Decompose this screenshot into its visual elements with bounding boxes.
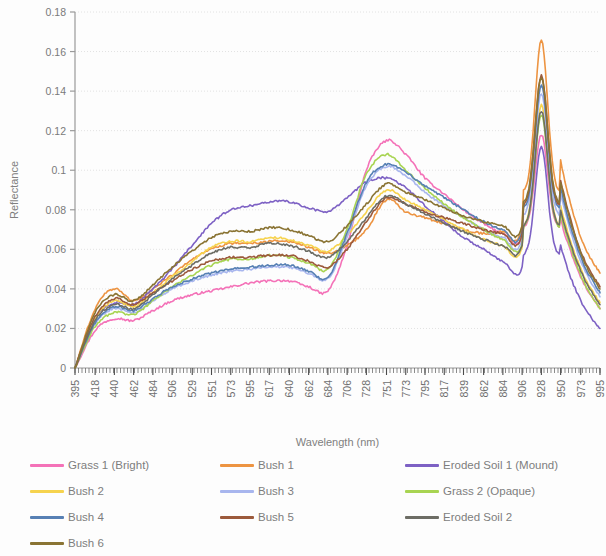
chart-legend: Grass 1 (Bright)Bush 1Eroded Soil 1 (Mou… — [30, 452, 596, 552]
legend-color-swatch — [405, 490, 439, 493]
x-axis-tick-label: 995 — [594, 380, 606, 398]
x-axis-tick-label: 950 — [555, 380, 567, 398]
y-axis-tick-label: 0.06 — [46, 243, 67, 255]
legend-item[interactable]: Grass 1 (Bright) — [30, 452, 220, 478]
x-axis-tick-label: 839 — [458, 380, 470, 398]
x-axis-tick-label: 928 — [535, 380, 547, 398]
legend-color-swatch — [30, 516, 64, 519]
x-axis-tick-label: 484 — [147, 380, 159, 398]
legend-item[interactable]: Bush 1 — [220, 452, 405, 478]
x-axis-tick-label: 817 — [438, 380, 450, 398]
y-axis-tick-label: 0.18 — [46, 6, 67, 18]
legend-color-swatch — [405, 516, 439, 519]
legend-color-swatch — [220, 464, 254, 467]
legend-row: Bush 6 — [30, 530, 596, 556]
legend-item[interactable]: Eroded Soil 2 — [405, 504, 596, 530]
y-axis-tick-label: 0.14 — [46, 85, 67, 97]
y-axis-title: Reflectance — [8, 161, 20, 219]
legend-label: Eroded Soil 1 (Mound) — [443, 459, 558, 471]
data-series-line — [75, 40, 600, 368]
x-axis-tick-label: 884 — [497, 380, 509, 398]
legend-label: Grass 2 (Opaque) — [443, 485, 535, 497]
x-axis-tick-label: 440 — [108, 380, 120, 398]
legend-color-swatch — [405, 464, 439, 467]
legend-item[interactable]: Bush 4 — [30, 504, 220, 530]
legend-label: Grass 1 (Bright) — [68, 459, 149, 471]
legend-row: Bush 4Bush 5Eroded Soil 2 — [30, 504, 596, 530]
legend-color-swatch — [30, 464, 64, 467]
y-axis-tick-label: 0.12 — [46, 125, 67, 137]
x-axis-tick-label: 595 — [244, 380, 256, 398]
legend-color-swatch — [220, 516, 254, 519]
legend-item[interactable]: Bush 5 — [220, 504, 405, 530]
legend-item[interactable]: Bush 6 — [30, 530, 220, 556]
y-axis-tick-label: 0.1 — [51, 164, 66, 176]
x-axis-tick-label: 529 — [186, 380, 198, 398]
legend-color-swatch — [30, 490, 64, 493]
x-axis-tick-label: 462 — [128, 380, 140, 398]
legend-item[interactable]: Bush 3 — [220, 478, 405, 504]
x-axis-tick-label: 906 — [516, 380, 528, 398]
legend-label: Bush 1 — [258, 459, 294, 471]
x-axis-tick-label: 551 — [206, 380, 218, 398]
legend-item[interactable]: Bush 2 — [30, 478, 220, 504]
y-axis-tick-label: 0.16 — [46, 46, 67, 58]
plot-area: 00.020.040.060.080.10.120.140.160.183954… — [0, 0, 606, 452]
legend-label: Bush 6 — [68, 537, 104, 549]
x-axis-tick-label: 418 — [89, 380, 101, 398]
x-axis-tick-label: 795 — [419, 380, 431, 398]
x-axis-tick-label: 662 — [303, 380, 315, 398]
x-axis-tick-label: 640 — [283, 380, 295, 398]
x-axis-tick-label: 506 — [166, 380, 178, 398]
legend-item[interactable]: Eroded Soil 1 (Mound) — [405, 452, 596, 478]
x-axis-tick-label: 728 — [360, 380, 372, 398]
x-axis-tick-label: 684 — [322, 380, 334, 398]
y-axis-tick-label: 0.02 — [46, 322, 67, 334]
spectral-reflectance-chart: 00.020.040.060.080.10.120.140.160.183954… — [0, 0, 606, 556]
legend-label: Bush 4 — [68, 511, 104, 523]
legend-label: Bush 2 — [68, 485, 104, 497]
x-axis-title: Wavelength (nm) — [296, 436, 379, 448]
y-axis-tick-label: 0.08 — [46, 204, 67, 216]
x-axis-tick-label: 573 — [225, 380, 237, 398]
y-axis-tick-label: 0 — [60, 362, 66, 374]
legend-color-swatch — [220, 490, 254, 493]
data-series-line — [75, 78, 600, 368]
data-series-line — [75, 75, 600, 368]
legend-color-swatch — [30, 542, 64, 545]
legend-label: Eroded Soil 2 — [443, 511, 512, 523]
x-axis-tick-label: 706 — [341, 380, 353, 398]
x-axis-tick-label: 773 — [400, 380, 412, 398]
y-axis-tick-label: 0.04 — [46, 283, 67, 295]
x-axis-tick-label: 617 — [263, 380, 275, 398]
legend-item[interactable]: Grass 2 (Opaque) — [405, 478, 596, 504]
legend-row: Bush 2Bush 3Grass 2 (Opaque) — [30, 478, 596, 504]
x-axis-tick-label: 973 — [575, 380, 587, 398]
legend-row: Grass 1 (Bright)Bush 1Eroded Soil 1 (Mou… — [30, 452, 596, 478]
x-axis-tick-label: 862 — [478, 380, 490, 398]
x-axis-tick-label: 395 — [69, 380, 81, 398]
legend-label: Bush 3 — [258, 485, 294, 497]
x-axis-tick-label: 751 — [381, 380, 393, 398]
legend-label: Bush 5 — [258, 511, 294, 523]
